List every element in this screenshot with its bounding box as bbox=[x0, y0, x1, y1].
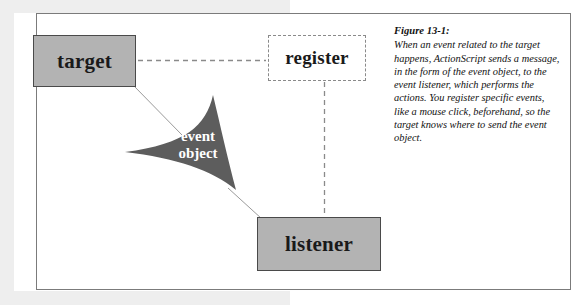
connector-target-eventobject bbox=[134, 86, 182, 135]
figure-caption: Figure 13-1: When an event related to th… bbox=[394, 24, 562, 145]
figure-page: target register listener event object Fi… bbox=[0, 0, 581, 305]
event-object-shape bbox=[125, 95, 236, 190]
node-register[interactable]: register bbox=[268, 35, 366, 81]
figure-caption-body: When an event related to the target happ… bbox=[394, 38, 562, 144]
connector-eventobject-listener bbox=[228, 188, 262, 219]
node-target-label: target bbox=[57, 49, 112, 74]
node-listener-label: listener bbox=[285, 232, 353, 257]
node-listener[interactable]: listener bbox=[257, 217, 381, 271]
figure-caption-title: Figure 13-1: bbox=[394, 24, 562, 37]
node-register-label: register bbox=[285, 47, 349, 69]
node-target[interactable]: target bbox=[33, 35, 136, 87]
